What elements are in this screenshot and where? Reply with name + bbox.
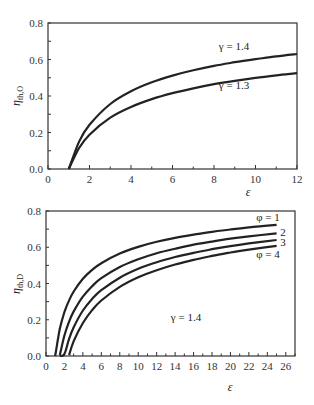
y-tick-label: 0.2	[27, 314, 41, 326]
x-tick-label: 20	[225, 360, 237, 372]
x-tick-label: 8	[117, 360, 123, 372]
x-tick-label: 18	[207, 360, 219, 372]
x-tick-label: 10	[133, 360, 145, 372]
chart-otto-efficiency: 0246810120.00.20.40.60.8εηth,Oγ = 1.4γ =…	[9, 17, 303, 199]
x-tick-label: 0	[43, 360, 49, 372]
x-tick-label: 26	[280, 360, 292, 372]
x-tick-label: 2	[87, 173, 93, 185]
x-tick-label: 8	[211, 173, 217, 185]
x-tick-label: 0	[45, 173, 51, 185]
y-tick-label: 0.6	[29, 54, 43, 66]
x-tick-label: 4	[128, 173, 134, 185]
y-axis-title: ηth,O	[9, 86, 25, 106]
y-tick-label: 0.4	[29, 90, 43, 102]
x-tick-label: 16	[188, 360, 200, 372]
x-axis-title: ε	[246, 185, 251, 199]
y-tick-label: 0.0	[27, 350, 41, 362]
x-tick-label: 4	[80, 360, 86, 372]
series-line	[60, 233, 277, 355]
y-axis-title: ηth,D	[9, 274, 25, 294]
x-tick-label: 12	[292, 173, 303, 185]
curve-annotation: γ = 1.4	[218, 40, 250, 52]
curve-annotation: 3	[280, 236, 286, 248]
x-tick-label: 10	[250, 173, 262, 185]
y-tick-label: 0.6	[27, 241, 41, 253]
plot-frame	[46, 211, 295, 356]
series-line	[69, 73, 297, 169]
curve-annotation: γ = 1.4	[170, 311, 202, 323]
series-line	[60, 240, 277, 356]
chart-diesel-efficiency: 024681012141618202224260.00.20.40.60.8εη…	[9, 205, 295, 394]
y-tick-label: 0.8	[27, 205, 41, 217]
series-line	[69, 246, 277, 355]
x-tick-label: 12	[151, 360, 162, 372]
x-tick-label: 22	[243, 360, 254, 372]
plot-frame	[48, 23, 297, 169]
x-axis-title: ε	[228, 380, 233, 394]
x-tick-label: 6	[170, 173, 176, 185]
curve-annotation: γ = 1.3	[218, 79, 250, 91]
y-tick-label: 0.8	[29, 17, 43, 29]
y-tick-label: 0.0	[29, 163, 43, 175]
x-tick-label: 14	[170, 360, 182, 372]
x-tick-label: 24	[262, 360, 274, 372]
y-tick-label: 0.4	[27, 278, 41, 290]
curve-annotation: φ = 4	[256, 248, 280, 260]
x-tick-label: 6	[99, 360, 105, 372]
x-tick-label: 2	[62, 360, 68, 372]
curve-annotation: φ = 1	[256, 211, 280, 223]
figure: 0246810120.00.20.40.60.8εηth,Oγ = 1.4γ =…	[0, 0, 314, 405]
series-line	[69, 54, 297, 169]
y-tick-label: 0.2	[29, 127, 43, 139]
